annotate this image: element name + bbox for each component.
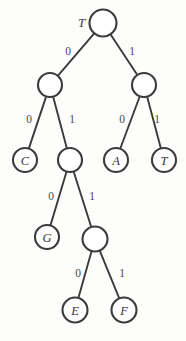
tree-internal-node — [83, 227, 108, 252]
node-label: E — [70, 304, 79, 318]
edge-label-bit: 1 — [69, 113, 75, 125]
tree-edge — [53, 97, 67, 149]
edge-label-bit: 0 — [48, 190, 54, 202]
tree-internal-node — [38, 73, 62, 97]
edge-label-bit: 0 — [26, 113, 32, 125]
tree-internal-node — [90, 10, 117, 37]
node-label: C — [21, 154, 30, 168]
node-label: G — [42, 231, 51, 245]
nodes-layer — [13, 10, 176, 323]
edge-label-bit: 1 — [89, 190, 95, 202]
edge-label-bit: 1 — [154, 113, 160, 125]
figure-canvas: 0101010101 TCATGEF — [0, 0, 186, 341]
edge-label-bit: 0 — [75, 267, 81, 279]
edge-label-bit: 1 — [129, 45, 135, 57]
tree-internal-node — [58, 148, 82, 172]
root-outside-label: T — [78, 15, 86, 30]
node-label: A — [111, 154, 120, 168]
node-label: T — [161, 154, 169, 168]
node-label: F — [119, 304, 128, 318]
binary-tree-diagram: 0101010101 TCATGEF — [0, 0, 186, 341]
tree-edge — [100, 251, 120, 299]
tree-internal-node — [132, 73, 156, 97]
tree-edge — [58, 33, 94, 76]
edge-label-bit: 0 — [65, 45, 71, 57]
edge-label-bit: 1 — [119, 267, 125, 279]
edge-label-bit: 0 — [119, 113, 125, 125]
node-labels-layer: TCATGEF — [21, 15, 169, 318]
